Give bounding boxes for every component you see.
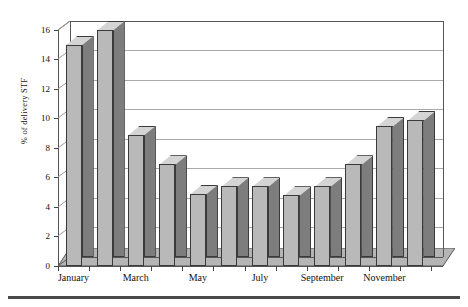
bar-front-face [376, 126, 392, 266]
bar-side-face [361, 155, 373, 257]
bar-side-face [392, 117, 404, 257]
bar-august [283, 186, 311, 266]
gridline-10 [70, 109, 443, 110]
bar-side-face [299, 186, 311, 257]
bar-front-face [252, 186, 268, 266]
bar-side-face [268, 177, 280, 257]
bar-front-face [128, 135, 144, 266]
axis-top-line [70, 21, 443, 22]
bar-side-face [82, 36, 94, 257]
bar-april [159, 155, 187, 266]
bar-september [314, 177, 342, 266]
xtick-mark-8 [307, 266, 308, 271]
bar-november [376, 117, 404, 266]
ytick-label-10: 10 [30, 114, 50, 123]
xtick-mark-1 [89, 266, 90, 271]
bar-side-face [175, 155, 187, 257]
xtick-mark-6 [245, 266, 246, 271]
y-axis-title: % of delivery STF [19, 41, 29, 181]
bar-front-face [283, 195, 299, 266]
axis-right-line [443, 21, 444, 257]
bar-july [252, 177, 280, 266]
bar-side-face [113, 21, 125, 257]
bar-october [345, 155, 373, 266]
chart-plot-area: 16 14 12 10 8 6 4 2 0 JanuaryMarchMayJul… [0, 0, 468, 307]
ytick-label-4: 4 [30, 203, 50, 212]
figure: 16 14 12 10 8 6 4 2 0 JanuaryMarchMayJul… [0, 0, 468, 307]
bottom-rule [8, 296, 460, 299]
bar-front-face [97, 30, 113, 266]
bar-side-face [144, 126, 156, 257]
xtick-mark-2 [120, 266, 121, 271]
xtick-mark-4 [182, 266, 183, 271]
bar-front-face [66, 45, 82, 266]
ytick-label-8: 8 [30, 144, 50, 153]
bar-side-face [423, 111, 435, 257]
xtick-mark-10 [369, 266, 370, 271]
bar-december [407, 111, 435, 266]
ytick-label-6: 6 [30, 173, 50, 182]
bar-side-face [206, 185, 218, 257]
ytick-label-12: 12 [30, 85, 50, 94]
bar-may [190, 185, 218, 266]
xtick-mark-11 [400, 266, 401, 271]
bar-front-face [314, 186, 330, 266]
ytick-label-2: 2 [30, 232, 50, 241]
bar-side-face [237, 177, 249, 257]
xtick-mark-3 [151, 266, 152, 271]
ytick-label-0: 0 [30, 262, 50, 271]
xtick-label-november: November [344, 272, 424, 284]
bar-front-face [221, 186, 237, 266]
bar-june [221, 177, 249, 266]
gridline-12 [70, 80, 443, 81]
gridline-14 [70, 50, 443, 51]
ytick-label-16: 16 [30, 26, 50, 35]
bar-side-face [330, 177, 342, 257]
bar-march [128, 126, 156, 266]
bar-front-face [159, 164, 175, 266]
xtick-mark-5 [213, 266, 214, 271]
bar-february [97, 21, 125, 266]
xtick-mark-9 [338, 266, 339, 271]
bar-front-face [345, 164, 361, 266]
xtick-mark-0 [58, 266, 59, 271]
xtick-mark-end [431, 266, 432, 271]
bar-january [66, 36, 94, 266]
xtick-mark-7 [276, 266, 277, 271]
ytick-label-14: 14 [30, 55, 50, 64]
bar-front-face [407, 120, 423, 266]
axis-x-baseline [58, 266, 443, 267]
bar-front-face [190, 194, 206, 266]
